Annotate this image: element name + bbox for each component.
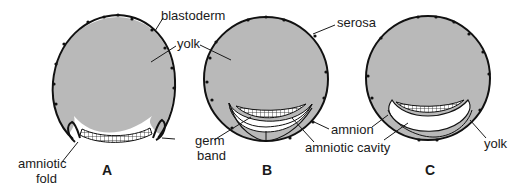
panel-label-b: B [262,162,272,178]
label-blastoderm: blastoderm [161,8,225,23]
label-germ: germ [195,133,225,148]
label-yolk-a: yolk [177,36,201,51]
leader-amnion [312,121,329,129]
panel-label-a: A [102,162,112,178]
label-amnion: amnion [331,122,374,137]
diagram: blastoderm yolk amniotic fold A germ ban… [0,0,523,187]
leader-serosa [313,25,335,34]
label-serosa: serosa [337,15,377,30]
label-fold: fold [36,171,57,186]
leader-germ-band-a [162,138,175,139]
panel-a: blastoderm yolk amniotic fold A [18,8,225,186]
label-amniotic: amniotic [18,156,67,171]
diagram-canvas: blastoderm yolk amniotic fold A germ ban… [0,0,523,187]
label-amniotic-cavity: amniotic cavity [305,140,391,155]
label-band: band [197,148,226,163]
label-yolk-c: yolk [484,136,508,151]
egg-a-yolk [54,17,175,135]
panel-label-c: C [425,162,435,178]
